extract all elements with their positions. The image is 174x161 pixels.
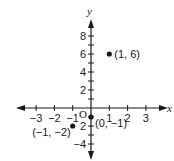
coordinate-plane: −3−2−1123 −422468 x y O (1, 6)(0, −1)(−1…: [0, 0, 174, 161]
y-tick-label: 2: [80, 120, 86, 132]
y-tick-label: −4: [73, 138, 86, 150]
data-point-label: (−1, −2): [32, 126, 71, 138]
y-axis-down-arrow-icon: [88, 151, 94, 160]
data-point-dot: [107, 51, 112, 56]
data-points: (1, 6)(0, −1)(−1, −2): [32, 48, 140, 138]
x-axis-left-arrow-icon: [16, 105, 25, 111]
y-tick-labels: −422468: [73, 30, 86, 150]
origin-label: O: [79, 108, 87, 120]
data-point-label: (1, 6): [114, 48, 140, 60]
y-tick-label: 4: [80, 66, 86, 78]
y-tick-label: 8: [80, 30, 86, 42]
data-point-dot: [88, 114, 93, 119]
x-tick-label: −1: [66, 112, 79, 124]
x-tick-label: −3: [30, 112, 43, 124]
y-tick-label: 6: [80, 48, 86, 60]
data-point-label: (0, −1): [95, 117, 127, 129]
x-axis-label: x: [166, 102, 172, 114]
y-axis-up-arrow-icon: [88, 19, 94, 28]
x-tick-label: 3: [143, 112, 149, 124]
x-tick-label: −2: [48, 112, 61, 124]
y-axis-label: y: [86, 5, 92, 17]
data-point-dot: [70, 123, 75, 128]
y-tick-label: 2: [80, 84, 86, 96]
